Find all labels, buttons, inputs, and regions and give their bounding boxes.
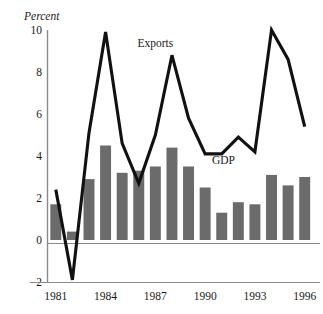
gdp-bar-1995	[283, 185, 294, 240]
gdp-bar-1991	[216, 213, 227, 240]
exports-line-series	[56, 30, 305, 280]
y-axis-tick-labels: −20246810	[30, 24, 43, 288]
x-axis-tick-1996: 1996	[293, 290, 316, 302]
gdp-bar-1993	[249, 204, 260, 240]
series-annotation-gdp: GDP	[212, 154, 235, 166]
x-axis-tick-1987: 1987	[144, 290, 167, 302]
gdp-bar-1989	[183, 167, 194, 241]
gdp-bar-1988	[166, 148, 177, 240]
gdp-bar-1990	[200, 188, 211, 241]
y-axis-tick-2: 2	[36, 192, 42, 204]
chart-container: Percent −20246810 1981198419871990199319…	[0, 0, 323, 314]
gdp-bar-1994	[266, 175, 277, 240]
x-axis-tick-1981: 1981	[44, 290, 67, 302]
gdp-bar-1985	[117, 173, 128, 240]
y-axis-tick-4: 4	[36, 150, 42, 162]
gdp-bar-1992	[233, 202, 244, 240]
y-axis-tick-6: 6	[36, 108, 42, 120]
y-axis-unit-label: Percent	[23, 10, 60, 22]
y-axis-tick-10: 10	[31, 24, 43, 36]
percent-chart-svg: Percent −20246810 1981198419871990199319…	[0, 0, 323, 314]
y-axis-tick-8: 8	[36, 66, 42, 78]
x-axis-tick-1990: 1990	[194, 290, 217, 302]
gdp-bar-1996	[299, 177, 310, 240]
gdp-bar-1984	[100, 146, 111, 241]
x-axis-tick-1984: 1984	[94, 290, 117, 302]
x-axis-tick-1993: 1993	[243, 290, 266, 302]
x-axis-tick-labels: 198119841987199019931996	[44, 290, 316, 302]
gdp-bar-series	[50, 146, 310, 241]
y-axis-tick-0: 0	[36, 234, 42, 246]
series-annotation-exports: Exports	[137, 37, 173, 50]
gdp-bar-1987	[150, 167, 161, 241]
gdp-bar-1983	[84, 179, 95, 240]
unit-label-group: Percent	[23, 10, 60, 22]
